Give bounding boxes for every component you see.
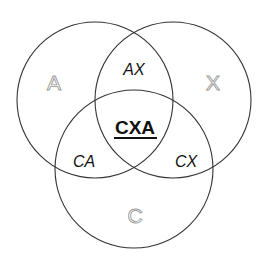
intersection-label-ax: AX [122, 61, 146, 78]
center-label-cxa: CXA [115, 117, 155, 138]
venn-diagram: A X C AX CA CX CXA [0, 0, 265, 261]
intersection-label-cx: CX [175, 153, 199, 170]
set-label-x: X [206, 71, 220, 94]
intersection-label-ca: CA [73, 153, 95, 170]
set-label-c: C [127, 204, 142, 227]
set-label-a: A [47, 71, 61, 94]
